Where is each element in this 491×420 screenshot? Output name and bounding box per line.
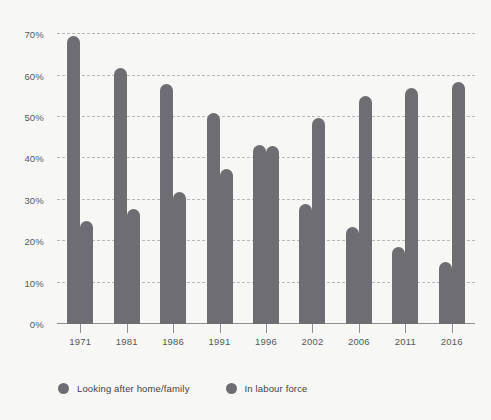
bar [346, 227, 359, 324]
bars-layer [57, 26, 475, 324]
x-axis-tick [127, 324, 128, 333]
bar [299, 204, 312, 324]
bar [405, 88, 418, 324]
bar [312, 118, 325, 324]
x-axis-tick-label: 1996 [255, 336, 277, 347]
y-axis-tick-label: 20% [24, 236, 44, 247]
bar-chart: 0%10%20%30%40%50%60%70% 1971198119861991… [0, 0, 491, 420]
bar [253, 145, 266, 324]
x-axis-tick-label: 2016 [441, 336, 463, 347]
y-axis-tick-label: 60% [24, 70, 44, 81]
legend-label: In labour force [245, 383, 308, 394]
y-axis-tick-label: 30% [24, 194, 44, 205]
bar [173, 192, 186, 324]
bar [392, 247, 405, 324]
x-axis-tick [80, 324, 81, 333]
chart-legend: Looking after home/family In labour forc… [58, 383, 308, 394]
plot-area [57, 26, 475, 324]
bar [452, 82, 465, 324]
bar [439, 262, 452, 324]
x-axis-tick [173, 324, 174, 333]
bar [67, 36, 80, 324]
legend-label: Looking after home/family [77, 383, 190, 394]
bar [359, 96, 372, 324]
x-axis-tick [359, 324, 360, 333]
x-axis-tick-label: 1991 [209, 336, 231, 347]
legend-item-home-family[interactable]: Looking after home/family [58, 383, 190, 394]
bar [207, 113, 220, 324]
y-axis-tick-label: 50% [24, 112, 44, 123]
x-axis-tick-label: 2002 [301, 336, 323, 347]
bar [114, 68, 127, 324]
x-axis-tick [405, 324, 406, 333]
x-axis-tick [266, 324, 267, 333]
legend-item-labour-force[interactable]: In labour force [226, 383, 308, 394]
legend-swatch-icon [226, 383, 237, 394]
x-axis-tick [312, 324, 313, 333]
x-axis-tick [452, 324, 453, 333]
x-axis-tick-label: 2006 [348, 336, 370, 347]
bar [220, 169, 233, 324]
bar [160, 84, 173, 324]
y-axis-tick-label: 10% [24, 277, 44, 288]
y-axis-tick-label: 40% [24, 153, 44, 164]
bar [80, 221, 93, 324]
x-axis-tick [220, 324, 221, 333]
y-axis-tick-label: 0% [30, 319, 44, 330]
legend-swatch-icon [58, 383, 69, 394]
x-axis-tick-label: 1971 [69, 336, 91, 347]
x-axis-tick-label: 1986 [162, 336, 184, 347]
x-axis-labels: 197119811986199119962002200620112016 [57, 336, 475, 356]
x-axis-tick-label: 1981 [116, 336, 138, 347]
y-axis-labels: 0%10%20%30%40%50%60%70% [0, 26, 52, 324]
x-axis-ticks [57, 324, 475, 333]
x-axis-tick-label: 2011 [395, 336, 416, 347]
bar [127, 209, 140, 324]
bar [266, 146, 279, 324]
y-axis-tick-label: 70% [24, 29, 44, 40]
